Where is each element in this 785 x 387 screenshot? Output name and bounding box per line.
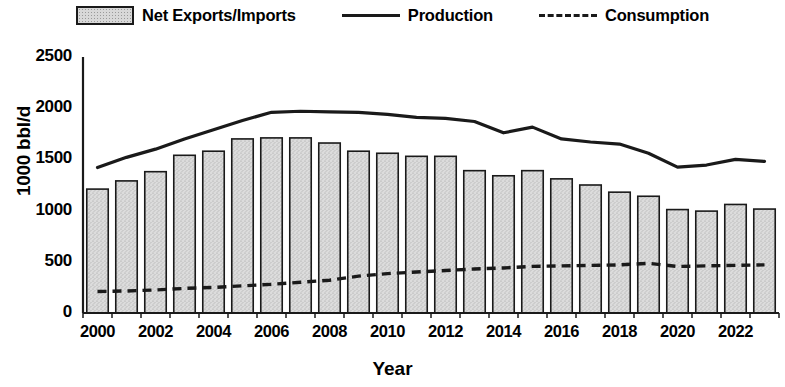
- x-tick-2020: 2020: [648, 322, 708, 341]
- y-tick-1500: 1500: [0, 148, 72, 168]
- bar-2000: [87, 189, 108, 313]
- bar-2023: [754, 209, 775, 313]
- y-tick-500: 500: [0, 251, 72, 271]
- x-tick-2022: 2022: [706, 322, 766, 341]
- bar-2007: [290, 138, 311, 313]
- bar-2022: [725, 204, 746, 313]
- bar-2016: [551, 179, 572, 313]
- y-tick-2000: 2000: [0, 97, 72, 117]
- bar-2006: [261, 138, 282, 313]
- x-tick-2006: 2006: [242, 322, 302, 341]
- bar-2010: [377, 153, 398, 313]
- x-tick-2000: 2000: [68, 322, 128, 341]
- bar-2015: [522, 171, 543, 313]
- bar-2008: [319, 143, 340, 313]
- bar-2001: [116, 181, 137, 313]
- x-tick-2002: 2002: [126, 322, 186, 341]
- bar-2014: [493, 176, 514, 313]
- bar-2013: [464, 171, 485, 313]
- line-series-production: [98, 111, 765, 167]
- y-tick-0: 0: [0, 302, 72, 322]
- x-tick-2010: 2010: [358, 322, 418, 341]
- bar-2019: [638, 196, 659, 313]
- chart-figure: Net Exports/Imports Production Consumpti…: [0, 0, 785, 387]
- x-tick-2016: 2016: [532, 322, 592, 341]
- bar-2009: [348, 151, 369, 313]
- bar-2012: [435, 156, 456, 313]
- bar-2021: [696, 211, 717, 313]
- bar-2020: [667, 210, 688, 313]
- x-tick-2014: 2014: [474, 322, 534, 341]
- bar-2017: [580, 185, 601, 313]
- line-series-consumption: [98, 263, 765, 291]
- x-tick-2004: 2004: [184, 322, 244, 341]
- y-tick-1000: 1000: [0, 200, 72, 220]
- x-tick-2012: 2012: [416, 322, 476, 341]
- x-tick-2008: 2008: [300, 322, 360, 341]
- bar-2018: [609, 192, 630, 313]
- y-tick-2500: 2500: [0, 46, 72, 66]
- bar-2011: [406, 156, 427, 313]
- x-tick-2018: 2018: [590, 322, 650, 341]
